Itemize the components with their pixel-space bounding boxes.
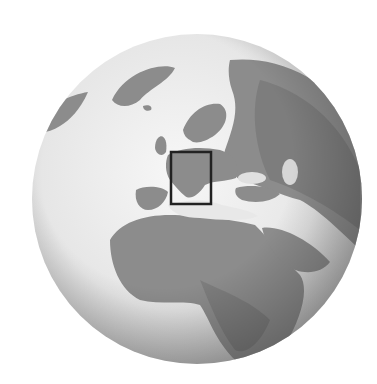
globe-svg xyxy=(0,0,377,384)
globe-map xyxy=(0,0,377,384)
globe-shading xyxy=(32,34,362,364)
